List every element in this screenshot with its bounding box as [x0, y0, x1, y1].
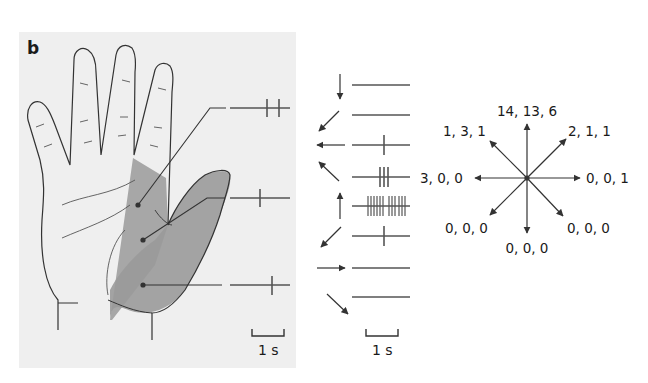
- panel-c-scale-bar: 1 s: [366, 329, 398, 358]
- label-down-left: 0, 0, 0: [445, 220, 488, 236]
- label-up-right: 2, 1, 1: [568, 123, 611, 139]
- stimulus-direction-arrows: [317, 74, 348, 314]
- label-down-right: 0, 0, 0: [567, 220, 610, 236]
- panel-c-traces: [352, 85, 410, 297]
- panel-c-canvas: 1 s 14, 13, 6 1, 3, 1 2, 1, 1 3, 0, 0 0,…: [0, 0, 648, 383]
- label-up-left: 1, 3, 1: [443, 123, 486, 139]
- direction-labels: 14, 13, 6 1, 3, 1 2, 1, 1 3, 0, 0 0, 0, …: [420, 103, 629, 256]
- label-right: 0, 0, 1: [586, 170, 629, 186]
- label-up: 14, 13, 6: [497, 103, 557, 119]
- label-left: 3, 0, 0: [420, 170, 463, 186]
- direction-star: [475, 124, 580, 233]
- panel-c-scale-label: 1 s: [372, 342, 393, 358]
- label-down: 0, 0, 0: [506, 240, 549, 256]
